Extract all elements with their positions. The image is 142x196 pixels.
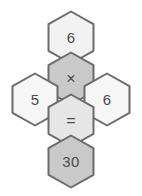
hexagon-puzzle-canvas: 6 × 5 6 = 30: [0, 0, 142, 196]
hex-cell-bottom[interactable]: 30: [47, 134, 95, 189]
hex-label-bottom: 30: [47, 134, 95, 189]
